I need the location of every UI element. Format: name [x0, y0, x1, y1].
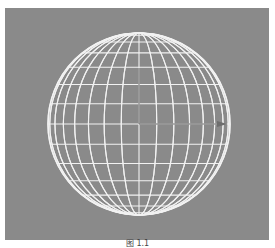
x-axis-arrow-icon: [217, 121, 227, 127]
figure-caption: 图 1.1: [0, 239, 275, 248]
wireframe-sphere: [5, 8, 269, 240]
3d-viewport[interactable]: [5, 8, 269, 240]
